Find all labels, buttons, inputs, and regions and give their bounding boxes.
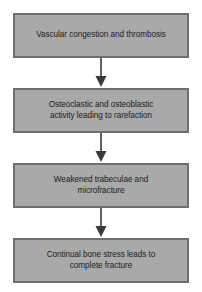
- flowchart-node-2-label: Osteoclastic and osteoblastic activity l…: [43, 100, 160, 121]
- flowchart-connector-2: [0, 133, 202, 163]
- flowchart-node-4-label: Continual bone stress leads to complete …: [41, 250, 162, 271]
- flowchart-node-3-label: Weakened trabeculae and microfracture: [48, 175, 154, 196]
- arrow-down-icon: [0, 133, 202, 163]
- flowchart-diagram: Vascular congestion and thrombosis Osteo…: [0, 0, 202, 292]
- flowchart-node-3: Weakened trabeculae and microfracture: [13, 163, 189, 208]
- arrow-down-icon: [0, 58, 202, 88]
- arrow-down-icon: [0, 208, 202, 238]
- flowchart-connector-1: [0, 58, 202, 88]
- flowchart-connector-3: [0, 208, 202, 238]
- flowchart-node-4: Continual bone stress leads to complete …: [13, 238, 189, 283]
- flowchart-node-2: Osteoclastic and osteoblastic activity l…: [13, 88, 189, 133]
- flowchart-node-1: Vascular congestion and thrombosis: [13, 13, 189, 58]
- flowchart-node-1-label: Vascular congestion and thrombosis: [30, 30, 172, 40]
